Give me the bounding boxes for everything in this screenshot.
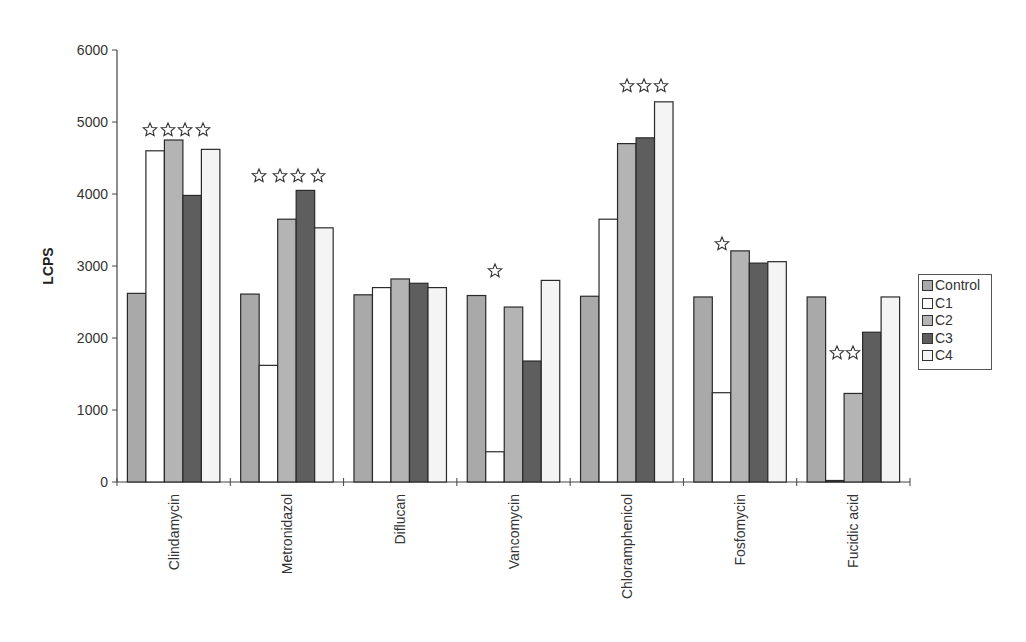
legend-label: C2 bbox=[935, 312, 953, 329]
significance-star-icon bbox=[178, 123, 191, 136]
legend-swatch-control bbox=[922, 280, 933, 291]
significance-star-icon bbox=[715, 237, 728, 250]
significance-star-icon bbox=[252, 169, 265, 182]
legend-item-c4: C4 bbox=[922, 347, 988, 365]
bar-control bbox=[354, 295, 373, 482]
x-category-label: Vancomycin bbox=[506, 494, 522, 569]
bar-c3 bbox=[863, 332, 882, 482]
bar-c4 bbox=[541, 280, 560, 482]
y-tick-label: 6000 bbox=[77, 42, 108, 58]
legend-label: C4 bbox=[935, 347, 953, 364]
legend-label: C3 bbox=[935, 330, 953, 347]
bar-c2 bbox=[164, 140, 183, 482]
legend-item-c2: C2 bbox=[922, 312, 988, 330]
bar-c2 bbox=[504, 307, 523, 482]
bar-c2 bbox=[844, 393, 863, 482]
bar-c4 bbox=[881, 297, 900, 482]
legend-label: C1 bbox=[935, 295, 953, 312]
legend-label: Control bbox=[935, 277, 980, 294]
bar-group-fucidic-acid bbox=[807, 297, 900, 482]
bar-c1 bbox=[372, 288, 391, 482]
bar-c3 bbox=[523, 361, 542, 482]
bar-control bbox=[241, 294, 260, 482]
bar-c3 bbox=[409, 283, 428, 482]
significance-star-icon bbox=[196, 123, 209, 136]
significance-star-icon bbox=[488, 264, 501, 277]
bar-c2 bbox=[618, 144, 637, 482]
bar-control bbox=[467, 296, 486, 482]
bar-c2 bbox=[278, 219, 297, 482]
significance-star-icon bbox=[143, 123, 156, 136]
bar-c2 bbox=[731, 251, 750, 482]
bar-group-chloramphenicol bbox=[581, 102, 674, 482]
bar-group-fosfomycin bbox=[694, 251, 787, 482]
legend-item-control: Control bbox=[922, 277, 988, 295]
x-category-label: Metronidazol bbox=[279, 494, 295, 574]
legend-swatch-c1 bbox=[922, 298, 933, 309]
legend-swatch-c2 bbox=[922, 315, 933, 326]
x-category-label: Diflucan bbox=[392, 494, 408, 545]
bar-group-diflucan bbox=[354, 279, 447, 482]
bar-c1 bbox=[599, 219, 618, 482]
bar-c1 bbox=[826, 481, 845, 483]
x-category-label: Clindamycin bbox=[166, 494, 182, 570]
bar-c3 bbox=[749, 263, 768, 482]
x-category-label: Fosfomycin bbox=[732, 494, 748, 566]
significance-star-icon bbox=[654, 79, 667, 92]
y-tick-label: 2000 bbox=[77, 330, 108, 346]
significance-star-icon bbox=[620, 79, 633, 92]
legend-item-c3: C3 bbox=[922, 330, 988, 348]
bar-c1 bbox=[146, 151, 165, 482]
bar-control bbox=[127, 293, 145, 482]
bar-c4 bbox=[768, 262, 787, 482]
legend-swatch-c3 bbox=[922, 333, 933, 344]
bar-group-clindamycin bbox=[127, 140, 219, 482]
x-category-label: Chloramphenicol bbox=[619, 494, 635, 599]
significance-star-icon bbox=[273, 169, 286, 182]
x-category-label: Fucidic acid bbox=[845, 494, 861, 568]
y-tick-label: 4000 bbox=[77, 186, 108, 202]
significance-star-icon bbox=[830, 346, 843, 359]
significance-star-icon bbox=[846, 346, 859, 359]
legend-swatch-c4 bbox=[922, 350, 933, 361]
y-tick-label: 5000 bbox=[77, 114, 108, 130]
bar-group-vancomycin bbox=[467, 280, 560, 482]
bar-c3 bbox=[636, 138, 655, 482]
bar-chart: 0100020003000400050006000LCPSClindamycin… bbox=[0, 0, 1026, 642]
y-axis-label: LCPS bbox=[40, 247, 56, 284]
bar-c4 bbox=[428, 288, 447, 482]
significance-star-icon bbox=[161, 123, 174, 136]
significance-star-icon bbox=[291, 169, 304, 182]
bar-control bbox=[807, 297, 826, 482]
bar-control bbox=[581, 296, 600, 482]
y-tick-label: 3000 bbox=[77, 258, 108, 274]
bar-c1 bbox=[259, 365, 278, 482]
legend-item-c1: C1 bbox=[922, 295, 988, 313]
bar-c4 bbox=[655, 102, 674, 482]
y-tick-label: 0 bbox=[100, 474, 108, 490]
significance-star-icon bbox=[637, 79, 650, 92]
bar-c4 bbox=[201, 149, 220, 482]
legend: Control C1 C2 C3 C4 bbox=[918, 274, 992, 370]
bar-c3 bbox=[296, 190, 315, 482]
significance-star-icon bbox=[311, 169, 324, 182]
bar-c2 bbox=[391, 279, 410, 482]
bar-control bbox=[694, 297, 713, 482]
bar-c1 bbox=[486, 452, 505, 482]
bar-c3 bbox=[183, 195, 202, 482]
bar-group-metronidazol bbox=[241, 190, 333, 482]
bar-c4 bbox=[315, 228, 334, 482]
y-tick-label: 1000 bbox=[77, 402, 108, 418]
bar-c1 bbox=[712, 393, 731, 482]
